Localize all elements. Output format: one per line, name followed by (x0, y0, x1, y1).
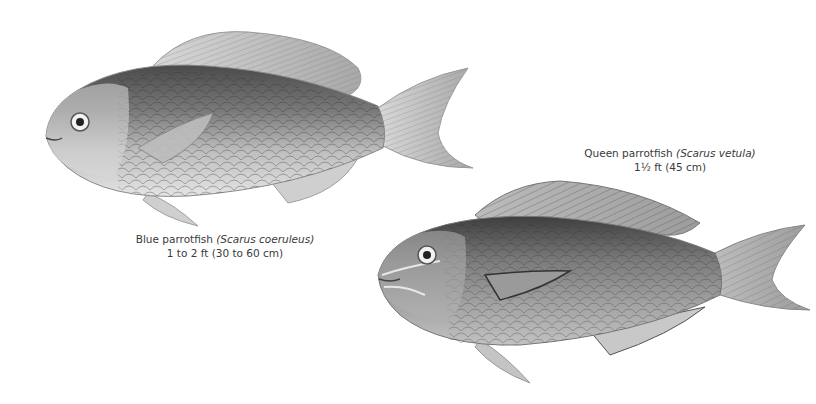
caption-name-line: Queen parrotfish (Scarus vetula) (560, 146, 780, 160)
illustration-plate: Blue parrotfish (Scarus coeruleus) 1 to … (0, 0, 816, 404)
queen-parrotfish-illustration (370, 175, 810, 385)
scientific-name: (Scarus coeruleus) (216, 233, 314, 245)
common-name: Queen parrotfish (584, 147, 672, 159)
blue-parrotfish-caption: Blue parrotfish (Scarus coeruleus) 1 to … (105, 232, 345, 260)
caption-name-line: Blue parrotfish (Scarus coeruleus) (105, 232, 345, 246)
queen-parrotfish-caption: Queen parrotfish (Scarus vetula) 1½ ft (… (560, 146, 780, 174)
size-text: 1 to 2 ft (30 to 60 cm) (105, 246, 345, 260)
size-text: 1½ ft (45 cm) (560, 160, 780, 174)
common-name: Blue parrotfish (136, 233, 213, 245)
scientific-name: (Scarus vetula) (676, 147, 756, 159)
